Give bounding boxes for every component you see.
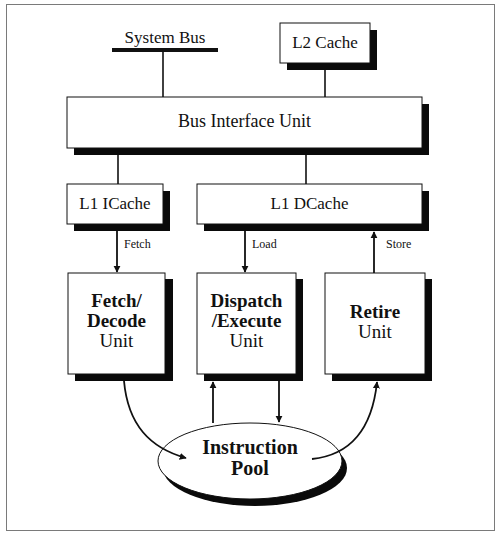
load-edge-label: Load bbox=[252, 238, 277, 251]
l1-dcache-label: L1 DCache bbox=[197, 195, 422, 213]
dispatch-execute-line3: Unit bbox=[197, 331, 296, 351]
fetch-edge-label: Fetch bbox=[124, 238, 151, 251]
instruction-pool-label: Instruction Pool bbox=[158, 437, 342, 479]
store-edge-label: Store bbox=[386, 238, 411, 251]
retire-line2: Unit bbox=[325, 322, 425, 342]
system-bus-bar bbox=[112, 48, 218, 52]
system-bus-label: System Bus bbox=[112, 29, 218, 47]
fetch-decode-line2: Decode bbox=[68, 311, 165, 331]
dispatch-execute-line1: Dispatch bbox=[197, 291, 296, 311]
dispatch-execute-line2: /Execute bbox=[197, 311, 296, 331]
dispatch-execute-label: Dispatch /Execute Unit bbox=[197, 291, 296, 351]
fetch-decode-line3: Unit bbox=[68, 331, 165, 351]
retire-line1: Retire bbox=[325, 302, 425, 322]
l2-cache-label: L2 Cache bbox=[280, 34, 370, 52]
instruction-pool-line1: Instruction bbox=[158, 437, 342, 458]
biu-label: Bus Interface Unit bbox=[67, 112, 422, 131]
l1-icache-label: L1 ICache bbox=[67, 195, 163, 213]
instruction-pool-line2: Pool bbox=[158, 458, 342, 479]
fetch-decode-line1: Fetch/ bbox=[68, 291, 165, 311]
fetch-decode-label: Fetch/ Decode Unit bbox=[68, 291, 165, 351]
retire-label: Retire Unit bbox=[325, 302, 425, 342]
